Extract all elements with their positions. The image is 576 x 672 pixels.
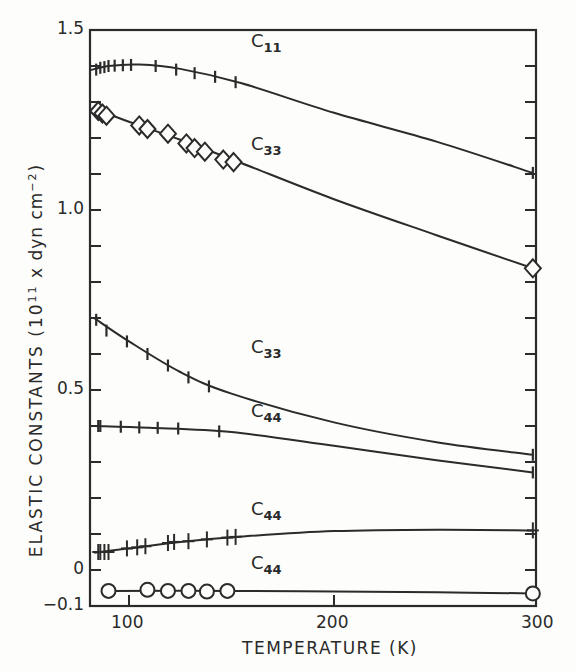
data-markers <box>90 59 541 600</box>
plot-frame <box>90 30 536 606</box>
curve-label: C44 <box>251 400 282 425</box>
x-axis-label: TEMPERATURE (K) <box>200 638 460 658</box>
curve-label: C33 <box>251 336 282 361</box>
curve-label: C11 <box>251 30 282 55</box>
x-tick-label: 200 <box>316 612 348 632</box>
x-tick-label: 300 <box>521 612 553 632</box>
y-axis-label-exp2: −2 <box>26 171 39 191</box>
curve-label: C44 <box>251 552 282 577</box>
data-curves <box>90 64 533 593</box>
y-axis-label-mid: x dyn cm <box>26 192 46 285</box>
curve-label: C33 <box>251 133 282 158</box>
y-axis-label-end: ) <box>26 163 46 172</box>
y-axis-label-exp1: 11 <box>26 284 39 302</box>
y-axis-label-main: ELASTIC CONSTANTS (10 <box>26 302 46 557</box>
y-axis-label: ELASTIC CONSTANTS (1011 x dyn cm−2) <box>6 100 66 620</box>
curve-label: C44 <box>251 498 282 523</box>
axis-ticks <box>90 30 536 606</box>
y-tick-label: 0 <box>73 558 84 578</box>
elastic-constants-chart <box>0 0 576 672</box>
x-tick-label: 100 <box>111 612 143 632</box>
y-tick-label: 1.5 <box>57 18 84 38</box>
